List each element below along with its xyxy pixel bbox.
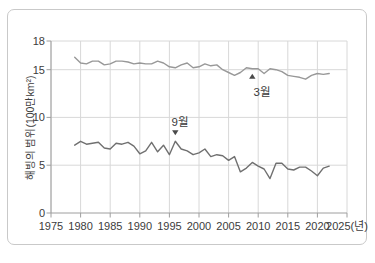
y-tick-label: 5 [19, 159, 45, 171]
series-line-september [75, 141, 330, 178]
y-tick-label: 10 [19, 111, 45, 123]
annotation-march-arrow-icon [249, 74, 255, 79]
x-tick-label: 2025(년) [319, 220, 375, 232]
annotation-september-label: 9월 [172, 113, 189, 129]
annotation-september-arrow-icon [172, 130, 178, 135]
annotation-march-label: 3월 [254, 83, 271, 99]
sea-ice-extent-figure: { "chart_data": { "type": "line", "title… [0, 0, 375, 263]
y-tick-label: 15 [19, 64, 45, 76]
y-tick-label: 18 [19, 35, 45, 47]
series-line-march [75, 57, 330, 79]
y-tick-label: 0 [19, 207, 45, 219]
